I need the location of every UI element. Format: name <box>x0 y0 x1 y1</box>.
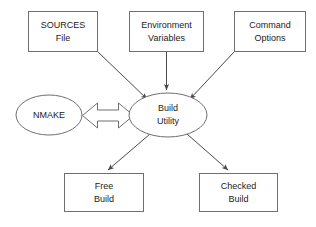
free-build-label-line1: Free <box>95 181 114 191</box>
edge-build-to-free-build <box>108 134 150 170</box>
node-environment-variables[interactable]: Environment Variables <box>130 12 204 52</box>
sources-file-box[interactable] <box>29 12 98 52</box>
environment-variables-label-line2: Variables <box>148 33 185 43</box>
node-checked-build[interactable]: Checked Build <box>200 174 278 212</box>
command-options-box[interactable] <box>235 12 306 52</box>
node-build-utility[interactable]: Build Utility <box>129 93 207 137</box>
command-options-label-line1: Command <box>249 20 291 30</box>
build-utility-label-line1: Build <box>158 103 178 113</box>
free-build-label-line2: Build <box>94 194 114 204</box>
edge-nmake-build-exchange-block-arrow <box>83 103 134 128</box>
node-free-build[interactable]: Free Build <box>65 174 144 212</box>
sources-file-label-line2: File <box>56 33 71 43</box>
node-command-options[interactable]: Command Options <box>235 12 306 52</box>
node-sources-file[interactable]: SOURCES File <box>29 12 98 52</box>
nmake-label: NMAKE <box>33 110 65 120</box>
edge-build-to-checked-build <box>187 134 228 170</box>
free-build-box[interactable] <box>65 174 144 212</box>
build-utility-label-line2: Utility <box>157 116 179 126</box>
build-utility-flow-diagram: SOURCES File Environment Variables Comma… <box>0 0 316 227</box>
command-options-label-line2: Options <box>254 33 286 43</box>
checked-build-label-line2: Build <box>228 194 248 204</box>
node-nmake[interactable]: NMAKE <box>16 95 82 135</box>
node-layer: SOURCES File Environment Variables Comma… <box>16 12 306 212</box>
checked-build-box[interactable] <box>200 174 278 212</box>
edge-sources-to-build <box>98 52 148 100</box>
environment-variables-box[interactable] <box>130 12 204 52</box>
sources-file-label-line1: SOURCES <box>41 20 86 30</box>
checked-build-label-line1: Checked <box>221 181 257 191</box>
environment-variables-label-line1: Environment <box>141 20 192 30</box>
edge-command-to-build <box>190 52 235 100</box>
diagram-canvas: SOURCES File Environment Variables Comma… <box>0 0 316 227</box>
